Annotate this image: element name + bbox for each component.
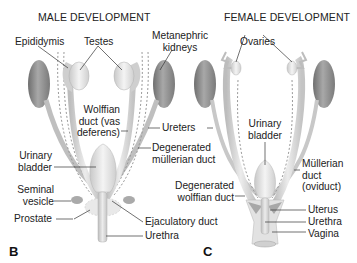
panel-label-b: B	[9, 244, 18, 259]
label-wolffian-line2: duct (vas	[72, 116, 120, 128]
label-male-urinary-bladder: Urinary bladder	[12, 150, 52, 173]
female-development-title: FEMALE DEVELOPMENT	[224, 11, 350, 23]
label-wolffian-line3: deferens)	[72, 127, 120, 139]
label-testes: Testes	[84, 36, 113, 48]
label-prostate: Prostate	[14, 213, 52, 225]
label-mullerian-line3: (oviduct)	[302, 181, 343, 193]
label-mullerian-line2: duct	[302, 170, 343, 182]
label-seminal-line1: Seminal	[12, 184, 54, 196]
label-metanephric-line1: Metanephric	[152, 30, 208, 42]
label-ureters: Ureters	[162, 122, 195, 134]
male-bladder	[90, 144, 116, 192]
label-degen-mullerian-line1: Degenerated	[152, 142, 215, 154]
label-degenerated-mullerian-duct: Degenerated müllerian duct	[152, 142, 215, 165]
label-ejaculatory-duct: Ejaculatory duct	[145, 216, 217, 228]
male-development-title: MALE DEVELOPMENT	[38, 11, 150, 23]
male-right-testis	[114, 62, 134, 90]
label-wolffian-duct: Wolffian duct (vas deferens)	[72, 104, 120, 139]
label-degenerated-wolffian-duct: Degenerated wolffian duct	[168, 180, 234, 203]
label-metanephric-line2: kidneys	[152, 42, 208, 54]
label-female-urethra: Urethra	[308, 216, 342, 228]
panel-label-c: C	[203, 244, 212, 259]
label-female-bladder-line2: bladder	[240, 130, 290, 142]
label-male-bladder-line2: bladder	[12, 162, 52, 174]
label-seminal-line2: vesicle	[12, 196, 54, 208]
label-mullerian-line1: Müllerian	[302, 158, 343, 170]
label-wolffian-line1: Wolffian	[72, 104, 120, 116]
label-metanephric-kidneys: Metanephric kidneys	[152, 30, 208, 53]
female-right-ovary	[287, 61, 297, 75]
label-female-bladder-line1: Urinary	[240, 118, 290, 130]
female-bladder	[255, 160, 276, 198]
label-male-urethra: Urethra	[145, 230, 179, 242]
female-left-ovary	[231, 61, 241, 75]
label-seminal-vesicle: Seminal vesicle	[12, 184, 54, 207]
male-left-testis	[69, 62, 89, 90]
label-uterus: Uterus	[308, 204, 338, 216]
label-ovaries: Ovaries	[240, 36, 275, 48]
male-urethra	[98, 192, 107, 242]
label-degen-mullerian-line2: müllerian duct	[152, 154, 215, 166]
label-vagina: Vagina	[308, 228, 339, 240]
label-degen-wolffian-line2: wolffian duct	[168, 192, 234, 204]
label-male-bladder-line1: Urinary	[12, 150, 52, 162]
label-female-urinary-bladder: Urinary bladder	[240, 118, 290, 141]
label-mullerian-duct: Müllerian duct (oviduct)	[302, 158, 343, 193]
label-epididymis: Epididymis	[15, 36, 64, 48]
label-degen-wolffian-line1: Degenerated	[168, 180, 234, 192]
